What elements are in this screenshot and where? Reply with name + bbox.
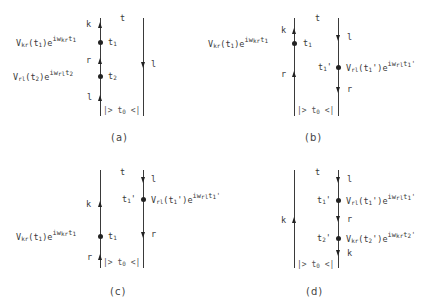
propagator-label: l	[151, 175, 156, 184]
arrow-up-icon	[292, 71, 296, 77]
vertex-dot	[336, 236, 341, 241]
initial-state-label: |> t0 <|	[103, 258, 140, 267]
time-axis-label: t	[120, 168, 125, 177]
time-axis-label: t	[315, 14, 320, 23]
arrow-down-icon	[336, 35, 340, 41]
propagator-label: r	[151, 230, 156, 239]
time-axis-label: t	[315, 168, 320, 177]
vertex-factor: Vkr(t2')eiwkrt2'	[346, 235, 415, 245]
arrow-up-icon	[98, 254, 102, 260]
vertex-dot	[98, 40, 103, 45]
initial-state-label: |> t0 <|	[103, 106, 140, 115]
propagator-label: k	[86, 20, 91, 29]
propagator-label: r	[347, 215, 352, 224]
arrow-down-icon	[336, 87, 340, 93]
initial-state-label: |> t0 <|	[297, 106, 334, 115]
arrow-down-icon	[336, 250, 340, 256]
propagator-label: k	[86, 200, 91, 209]
vertex-factor: Vkr(t1)eiwkrt1	[208, 40, 268, 50]
vertex-dot	[141, 197, 146, 202]
propagator-label: r	[281, 70, 286, 79]
panel-caption: (c)	[110, 286, 126, 297]
propagator-label: k	[281, 216, 286, 225]
arrow-up-icon	[98, 58, 102, 64]
time-axis-label: t	[120, 14, 125, 23]
vertex-factor: Vrl(t1')eiwrlt1'	[346, 197, 415, 207]
forward-branch-line	[100, 18, 102, 116]
arrow-down-icon	[141, 62, 145, 68]
vertex-factor: Vrl(t2)eiwrlt2	[13, 73, 73, 83]
propagator-label: r	[347, 85, 352, 94]
vertex-dot	[336, 198, 341, 203]
arrow-down-icon	[336, 177, 340, 183]
arrow-up-icon	[98, 22, 102, 28]
vertex-time: t2'	[317, 234, 331, 244]
vertex-dot	[336, 65, 341, 70]
vertex-dot	[98, 74, 103, 79]
vertex-time: t1	[303, 39, 312, 49]
propagator-label: r	[87, 253, 92, 262]
panel-caption: (a)	[111, 132, 128, 143]
arrow-down-icon	[141, 177, 145, 183]
arrow-up-icon	[98, 201, 102, 207]
vertex-time: t2	[108, 72, 117, 82]
propagator-label: k	[281, 26, 286, 35]
vertex-time: t1'	[318, 63, 332, 73]
panel-caption: (b)	[305, 132, 322, 143]
arrow-up-icon	[292, 28, 296, 34]
arrow-down-icon	[141, 232, 145, 238]
vertex-factor: Vkr(t1)eiwkrt1	[16, 39, 76, 49]
propagator-label: k	[347, 249, 352, 258]
vertex-time: t1	[108, 38, 117, 48]
vertex-time: t1	[108, 232, 117, 242]
propagator-label: r	[86, 56, 91, 65]
arrow-up-icon	[98, 95, 102, 101]
arrow-up-icon	[292, 217, 296, 223]
panel-caption: (d)	[306, 286, 323, 297]
propagator-label: l	[87, 93, 92, 102]
vertex-dot	[292, 41, 297, 46]
vertex-factor: Vrl(t1')eiwrlt1'	[151, 196, 220, 206]
vertex-factor: Vrl(t1')eiwrlt1'	[346, 64, 415, 74]
backward-branch-line	[143, 170, 145, 268]
vertex-time: t1'	[317, 196, 331, 206]
arrow-down-icon	[336, 216, 340, 222]
vertex-factor: Vkr(t1)eiwkrt1	[16, 233, 76, 243]
vertex-dot	[98, 234, 103, 239]
initial-state-label: |> t0 <|	[297, 260, 334, 269]
propagator-label: l	[151, 60, 156, 69]
vertex-time: t1'	[122, 195, 136, 205]
propagator-label: l	[347, 33, 352, 42]
propagator-label: l	[347, 175, 352, 184]
